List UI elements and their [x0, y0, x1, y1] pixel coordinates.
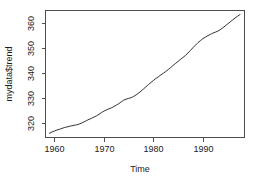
x-axis-title: Time: [130, 164, 150, 174]
x-tick-label: 1960: [44, 144, 64, 154]
y-tick-label: 320: [26, 116, 36, 131]
y-tick-label: 350: [26, 41, 36, 56]
y-axis: 320330340350360: [26, 16, 46, 131]
x-tick-label-group: 1960197019801990: [44, 144, 213, 154]
plot-canvas: 320330340350360 1960197019801990 Time my…: [0, 0, 255, 186]
x-tick-label: 1970: [94, 144, 114, 154]
y-tick-label: 340: [26, 66, 36, 81]
y-tick-label: 330: [26, 91, 36, 106]
x-tick-label: 1980: [143, 144, 163, 154]
x-tick-marks: [55, 138, 204, 142]
x-axis: 1960197019801990: [44, 138, 213, 154]
data-line-mydata-trend: [49, 14, 240, 133]
x-tick-label: 1990: [193, 144, 213, 154]
r-plot-figure: 320330340350360 1960197019801990 Time my…: [0, 0, 255, 186]
y-axis-title: mydata$trend: [4, 46, 14, 101]
plot-panel-border: [46, 11, 245, 138]
y-tick-label: 360: [26, 16, 36, 31]
data-series-group: [49, 14, 240, 133]
y-tick-label-group: 320330340350360: [26, 16, 36, 131]
y-tick-marks: [42, 24, 46, 124]
